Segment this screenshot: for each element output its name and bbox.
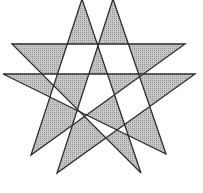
shaded-star-tips — [3, 0, 195, 173]
diagram-canvas — [0, 0, 203, 193]
overlapping-pentagrams-diagram — [0, 0, 203, 193]
